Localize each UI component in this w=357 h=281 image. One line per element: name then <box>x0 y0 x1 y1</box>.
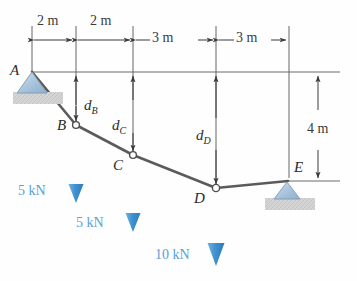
load-arrow-B <box>69 127 84 203</box>
load-label-C: 5 kN <box>76 216 104 230</box>
cable-loading-diagram: 2 m 2 m 3 m 3 m 4 m A B C D E dB dC dD 5… <box>0 0 357 281</box>
rocker-triangle-E <box>274 182 300 199</box>
pin-triangle-A <box>17 72 47 93</box>
cable-segment-CD <box>133 155 216 188</box>
joint-C <box>130 152 137 159</box>
sag-label-dD: dD <box>196 128 211 146</box>
node-label-A: A <box>10 63 19 78</box>
support-A-pin <box>13 72 63 104</box>
sag-label-dD-base: d <box>196 127 204 143</box>
diagram-canvas <box>0 0 357 281</box>
node-label-D: D <box>194 191 205 206</box>
dim-label-BC: 2 m <box>90 14 111 28</box>
load-arrow-D <box>208 190 225 266</box>
sag-label-dB-base: d <box>84 97 92 113</box>
sag-dimension-arrows <box>76 76 216 184</box>
node-label-E: E <box>294 160 303 175</box>
cable-segment-DE <box>216 181 288 188</box>
load-label-D: 10 kN <box>155 248 190 262</box>
joint-D <box>212 184 219 191</box>
sag-label-dC-sub: C <box>120 125 127 136</box>
joint-B <box>73 122 80 129</box>
load-arrow-C <box>126 157 141 232</box>
node-label-C: C <box>113 158 123 173</box>
ground-pad-A <box>13 92 63 104</box>
load-label-B: 5 kN <box>18 184 46 198</box>
support-E-rocker <box>265 182 315 210</box>
ground-pad-E <box>265 198 315 210</box>
dim-label-CD: 3 m <box>152 31 173 45</box>
sag-label-dB-sub: B <box>92 105 98 116</box>
sag-label-dC-base: d <box>112 117 120 133</box>
dim-label-4m: 4 m <box>307 122 328 136</box>
sag-label-dB: dB <box>84 98 98 116</box>
sag-label-dC: dC <box>112 118 126 136</box>
extension-lines <box>32 26 289 185</box>
node-label-B: B <box>57 118 66 133</box>
dim-label-AB: 2 m <box>37 14 58 28</box>
dim-label-DE: 3 m <box>236 31 257 45</box>
sag-label-dD-sub: D <box>204 135 211 146</box>
cable <box>32 72 288 188</box>
